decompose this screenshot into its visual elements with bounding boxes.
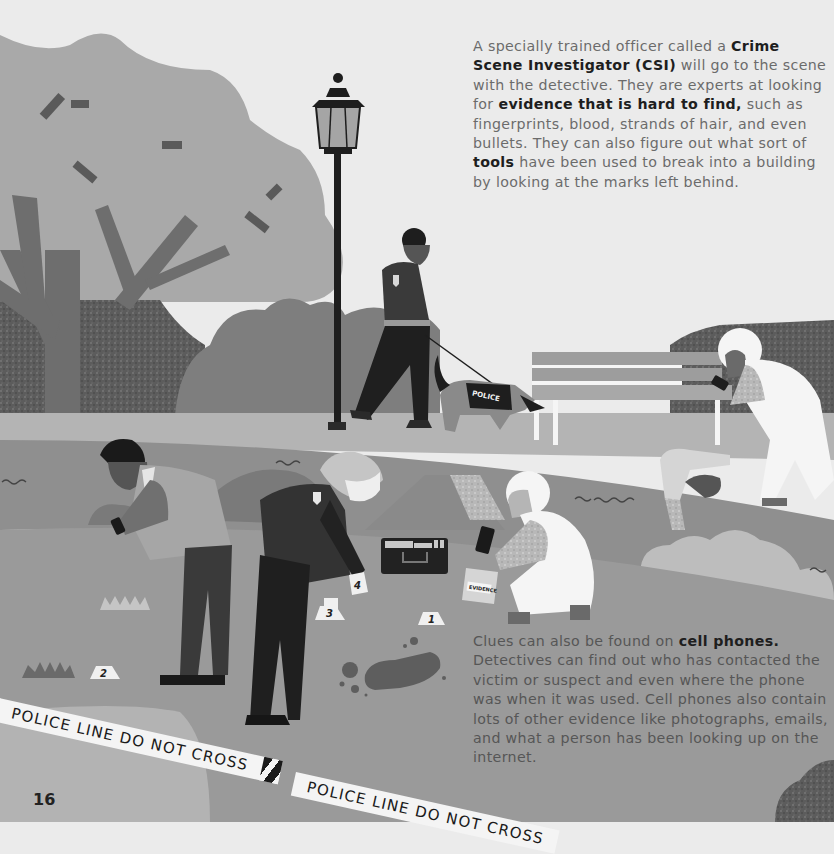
text-segment: A specially trained officer called a bbox=[473, 38, 731, 54]
svg-text:1: 1 bbox=[428, 614, 435, 625]
bold-term-evidence: evidence that is hard to find, bbox=[498, 96, 741, 112]
text-segment: have been used to break into a building … bbox=[473, 154, 816, 189]
bold-term-tools: tools bbox=[473, 154, 514, 170]
evidence-case bbox=[381, 538, 448, 574]
svg-text:2: 2 bbox=[100, 668, 107, 679]
svg-text:3: 3 bbox=[326, 608, 333, 619]
text-segment: Clues can also be found on bbox=[473, 633, 679, 649]
svg-text:4: 4 bbox=[353, 580, 361, 591]
top-paragraph: A specially trained officer called a Cri… bbox=[473, 37, 833, 192]
evidence-bag: EVIDENCE bbox=[462, 568, 498, 604]
text-segment: Detectives can find out who has contacte… bbox=[473, 652, 828, 765]
bottom-paragraph: Clues can also be found on cell phones. … bbox=[473, 632, 833, 768]
bold-term-cell-phones: cell phones. bbox=[679, 633, 779, 649]
page-number: 16 bbox=[33, 790, 55, 809]
